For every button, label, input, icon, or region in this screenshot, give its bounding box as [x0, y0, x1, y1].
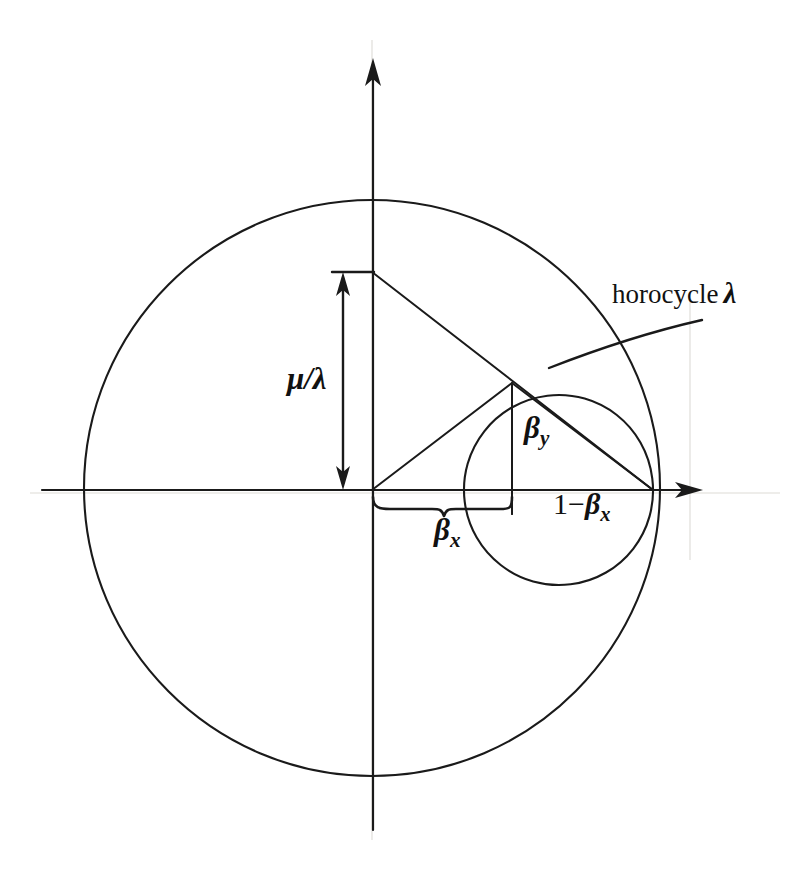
mu-over-lambda-text: μ/λ	[287, 361, 327, 396]
beta-y-subscript: y	[540, 426, 549, 450]
horocycle-lambda-symbol: λ	[718, 277, 736, 309]
label-beta-y: βy	[524, 412, 549, 449]
label-mu-over-lambda: μ/λ	[287, 363, 327, 394]
label-beta-x: βx	[434, 514, 460, 551]
mu-over-lambda-dimension	[332, 272, 374, 490]
segment-origin-to-beta	[372, 383, 512, 490]
scan-artifacts	[30, 40, 780, 840]
horocycle-word: horocycle	[612, 279, 718, 309]
one-minus-prefix: 1−	[553, 487, 585, 520]
y-axis	[365, 58, 381, 830]
horocycle-diagram: μ/λ βy βx 1−βx horocycleλ	[0, 0, 811, 873]
horocycle-leader-line	[549, 320, 702, 368]
one-minus-beta-subscript: x	[600, 503, 610, 525]
label-horocycle: horocycleλ	[612, 279, 736, 308]
label-one-minus-beta-x: 1−βx	[553, 489, 611, 524]
one-minus-beta-base: β	[585, 487, 600, 520]
diagram-canvas	[0, 0, 811, 873]
beta-x-subscript: x	[450, 528, 461, 552]
beta-x-base: β	[434, 512, 450, 547]
beta-y-base: β	[524, 410, 540, 445]
